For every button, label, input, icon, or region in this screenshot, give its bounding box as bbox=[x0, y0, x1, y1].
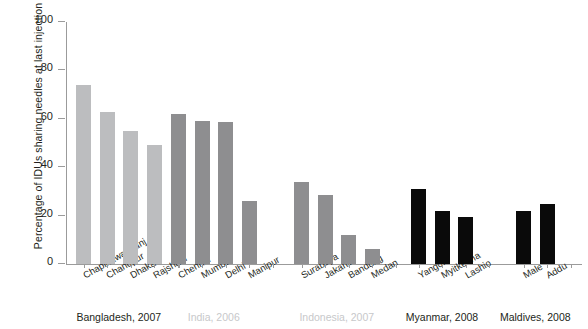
bar bbox=[516, 211, 531, 264]
bar bbox=[540, 204, 555, 265]
bar bbox=[76, 85, 91, 264]
x-axis-tick bbox=[273, 264, 274, 268]
y-axis-tick-label: 60 bbox=[41, 110, 53, 122]
y-axis-tick-label: 80 bbox=[41, 61, 53, 73]
x-axis-tick bbox=[419, 264, 420, 268]
bar bbox=[294, 182, 309, 264]
bar-chart-figure: Percentage of IDUs sharing needles at la… bbox=[0, 0, 588, 329]
x-axis-tick bbox=[396, 264, 397, 268]
x-axis-tick bbox=[524, 264, 525, 268]
y-axis-tick-label: 20 bbox=[41, 207, 53, 219]
bar bbox=[218, 122, 233, 264]
bar bbox=[411, 189, 426, 264]
bar bbox=[100, 112, 115, 264]
bar bbox=[195, 121, 210, 264]
x-axis-tick bbox=[84, 264, 85, 268]
x-axis-tick bbox=[226, 264, 227, 268]
x-axis-tick bbox=[349, 264, 350, 268]
y-axis-tick: 100 bbox=[58, 21, 65, 22]
x-axis-tick bbox=[466, 264, 467, 268]
plot-area: 020406080100ChapinawabganjChandpurDhakaR… bbox=[66, 22, 582, 264]
x-axis-tick bbox=[131, 264, 132, 268]
x-axis-tick bbox=[302, 264, 303, 268]
bar bbox=[458, 217, 473, 264]
x-axis-tick bbox=[571, 264, 572, 268]
bar bbox=[123, 131, 138, 264]
bar bbox=[242, 201, 257, 264]
y-axis-tick: 40 bbox=[58, 166, 65, 167]
y-axis-tick-label: 100 bbox=[35, 13, 53, 25]
y-axis-tick: 80 bbox=[58, 69, 65, 70]
bar bbox=[147, 145, 162, 264]
bar bbox=[435, 211, 450, 264]
x-axis-tick bbox=[179, 264, 180, 268]
y-axis-tick: 0 bbox=[58, 263, 65, 264]
bar bbox=[318, 195, 333, 264]
y-axis-tick: 20 bbox=[58, 215, 65, 216]
group-label: Maldives, 2008 bbox=[455, 311, 588, 323]
y-axis-tick: 60 bbox=[58, 118, 65, 119]
bar bbox=[341, 235, 356, 264]
x-axis-tick bbox=[489, 264, 490, 268]
y-axis-line bbox=[66, 22, 67, 264]
y-axis-tick-label: 40 bbox=[41, 158, 53, 170]
bar bbox=[365, 249, 380, 264]
bar bbox=[171, 114, 186, 264]
y-axis-tick-label: 0 bbox=[47, 255, 53, 267]
